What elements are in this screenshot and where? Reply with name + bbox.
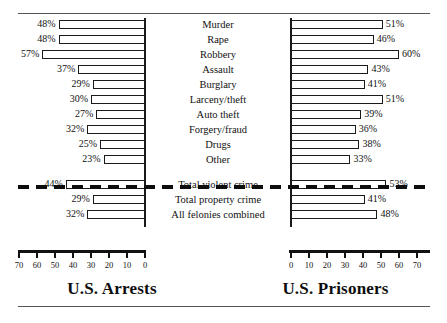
- left-bar-cell: 30%: [0, 93, 145, 108]
- bar-value-label-arrests: 23%: [55, 152, 101, 166]
- bar-prisoners: [291, 155, 350, 164]
- left-bar-cell: 57%: [0, 48, 145, 63]
- right-bar-cell: 60%: [291, 48, 447, 63]
- left-bar-cell: 25%: [0, 138, 145, 153]
- category-label: Auto theft: [146, 107, 290, 122]
- category-label: Total property crime: [146, 192, 290, 207]
- bar-prisoners: [291, 110, 361, 119]
- left-zero-axis: [144, 18, 146, 227]
- bar-value-label-prisoners: 43%: [371, 62, 417, 76]
- chart-row: 30%Larceny/theft51%: [0, 93, 447, 108]
- axis-tick-right: [380, 250, 382, 258]
- bar-prisoners: [291, 195, 365, 204]
- category-label: All felonies combined: [146, 207, 290, 222]
- top-divider-rule: [18, 13, 430, 14]
- bar-arrests: [59, 20, 145, 29]
- left-bar-cell: 23%: [0, 153, 145, 168]
- category-label: Assault: [146, 62, 290, 77]
- bar-value-label-arrests: 48%: [10, 32, 56, 46]
- bar-prisoners: [291, 95, 383, 104]
- bar-value-label-prisoners: 39%: [364, 107, 410, 121]
- right-bar-cell: 41%: [291, 78, 447, 93]
- totals-separator-dashed-line: [18, 185, 430, 189]
- bar-value-label-prisoners: 51%: [386, 17, 432, 31]
- axis-tick-label-left: 70: [7, 260, 31, 270]
- bar-value-label-prisoners: 48%: [380, 207, 426, 221]
- axis-tick-right: [398, 250, 400, 258]
- bar-arrests: [91, 95, 145, 104]
- left-bar-cell: 37%: [0, 63, 145, 78]
- left-bar-cell: 32%: [0, 208, 145, 223]
- bar-prisoners: [291, 65, 368, 74]
- bar-prisoners: [291, 35, 374, 44]
- chart-row: 32%All felonies combined48%: [0, 208, 447, 223]
- bar-value-label-arrests: 32%: [38, 207, 84, 221]
- bar-value-label-arrests: 27%: [47, 107, 93, 121]
- bar-value-label-arrests: 25%: [51, 137, 97, 151]
- axis-tick-right: [326, 250, 328, 258]
- chart-row: 29%Total property crime41%: [0, 193, 447, 208]
- right-bar-cell: 36%: [291, 123, 447, 138]
- bar-arrests: [93, 195, 145, 204]
- chart-row: 57%Robbery60%: [0, 48, 447, 63]
- right-zero-axis: [290, 18, 292, 227]
- bar-arrests: [59, 35, 145, 44]
- bar-prisoners: [291, 140, 359, 149]
- chart-row: 27%Auto theft39%: [0, 108, 447, 123]
- bar-value-label-prisoners: 41%: [368, 192, 414, 206]
- bar-value-label-prisoners: 33%: [353, 152, 399, 166]
- left-bar-cell: 27%: [0, 108, 145, 123]
- axis-tick-right: [308, 250, 310, 258]
- axis-tick-left: [36, 250, 38, 258]
- caption-right: U.S. Prisoners: [224, 278, 447, 300]
- chart-row: 48%Rape46%: [0, 33, 447, 48]
- bar-arrests: [42, 50, 145, 59]
- right-axis-line: [289, 250, 430, 253]
- right-bar-cell: 43%: [291, 63, 447, 78]
- chart-row: 32%Forgery/fraud36%: [0, 123, 447, 138]
- right-bar-cell: 51%: [291, 93, 447, 108]
- right-bar-cell: 39%: [291, 108, 447, 123]
- right-bar-cell: 38%: [291, 138, 447, 153]
- axis-tick-left: [72, 250, 74, 258]
- caption-left: U.S. Arrests: [0, 278, 224, 300]
- category-label: Rape: [146, 32, 290, 47]
- axis-tick-right: [290, 250, 292, 258]
- right-bar-cell: 41%: [291, 193, 447, 208]
- bar-value-label-arrests: 29%: [44, 77, 90, 91]
- bar-arrests: [96, 110, 145, 119]
- left-bar-cell: 48%: [0, 33, 145, 48]
- bar-value-label-prisoners: 60%: [402, 47, 447, 61]
- bar-arrests: [87, 125, 145, 134]
- axis-tick-left: [108, 250, 110, 258]
- bar-value-label-arrests: 37%: [29, 62, 75, 76]
- axis-tick-right: [416, 250, 418, 258]
- bar-value-label-prisoners: 46%: [377, 32, 423, 46]
- bar-prisoners: [291, 50, 399, 59]
- category-label: Murder: [146, 17, 290, 32]
- axis-tick-left: [90, 250, 92, 258]
- axis-tick-right: [344, 250, 346, 258]
- category-label: Robbery: [146, 47, 290, 62]
- right-bar-cell: 33%: [291, 153, 447, 168]
- chart-figure: 48%Murder51%48%Rape46%57%Robbery60%37%As…: [0, 0, 447, 323]
- bar-arrests: [93, 80, 145, 89]
- bar-prisoners: [291, 80, 365, 89]
- left-bar-cell: 29%: [0, 193, 145, 208]
- left-bar-cell: 32%: [0, 123, 145, 138]
- bottom-divider-rule: [18, 306, 430, 307]
- plot-area: 48%Murder51%48%Rape46%57%Robbery60%37%As…: [0, 18, 447, 223]
- bar-arrests: [100, 140, 145, 149]
- category-label: Forgery/fraud: [146, 122, 290, 137]
- category-label: Burglary: [146, 77, 290, 92]
- bar-value-label-arrests: 48%: [10, 17, 56, 31]
- bar-value-label-arrests: 29%: [44, 192, 90, 206]
- axis-tick-left: [144, 250, 146, 258]
- axis-tick-label-right: 70: [405, 260, 429, 270]
- chart-row: 29%Burglary41%: [0, 78, 447, 93]
- bar-value-label-prisoners: 38%: [362, 137, 408, 151]
- category-label: Drugs: [146, 137, 290, 152]
- chart-row: 37%Assault43%: [0, 63, 447, 78]
- chart-row: 23%Other33%: [0, 153, 447, 168]
- chart-row: 48%Murder51%: [0, 18, 447, 33]
